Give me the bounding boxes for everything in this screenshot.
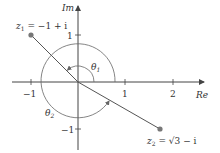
tick-label-im-1: 1 xyxy=(67,31,73,41)
z2-label: z2 = √3 − i xyxy=(146,136,197,147)
segment-z1-origin xyxy=(31,35,78,82)
point-z1 xyxy=(28,32,33,37)
segment-origin-z2 xyxy=(78,82,160,129)
complex-plane-diagram: −1 1 2 1 −1 Re Im θ1 θ2 z1 = −1 + i z2 =… xyxy=(0,0,220,153)
point-z2 xyxy=(157,126,162,131)
real-axis-label: Re xyxy=(195,90,208,100)
theta2-label: θ2 xyxy=(45,108,54,119)
theta1-label: θ1 xyxy=(91,62,100,73)
tick-label-re-1: 1 xyxy=(122,89,128,99)
z1-label: z1 = −1 + i xyxy=(15,21,67,32)
tick-label-re-2: 2 xyxy=(170,89,176,99)
imaginary-axis-label: Im xyxy=(61,3,74,13)
tick-label-im-neg1: −1 xyxy=(61,125,74,135)
tick-label-re-neg1: −1 xyxy=(23,89,36,99)
